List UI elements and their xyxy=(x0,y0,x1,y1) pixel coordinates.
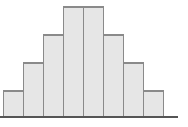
histogram-bar-2 xyxy=(23,62,44,118)
histogram-bar-5 xyxy=(83,6,104,118)
histogram-bar-7 xyxy=(123,62,144,118)
x-axis-line xyxy=(0,116,178,118)
plot-area xyxy=(3,6,164,118)
histogram-figure xyxy=(0,0,188,127)
histogram-bar-4 xyxy=(63,6,84,118)
histogram-bar-8 xyxy=(143,90,164,118)
histogram-bar-3 xyxy=(43,34,64,118)
histogram-bar-1 xyxy=(3,90,24,118)
histogram-bar-6 xyxy=(103,34,124,118)
